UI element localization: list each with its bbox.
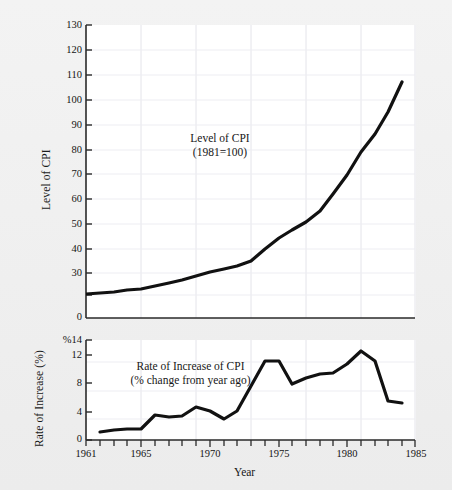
xtick-1985: 1985: [396, 448, 436, 459]
top-ytick-40: 40: [58, 243, 82, 254]
top-ytick-130: 130: [58, 19, 82, 30]
xtick-1980: 1980: [327, 448, 367, 459]
bottom-annotation-line2: (% change from year ago): [98, 373, 283, 387]
top-ytick-50: 50: [58, 218, 82, 229]
top-ytick-90: 90: [58, 119, 82, 130]
bottom-ytick-4: 4: [50, 406, 82, 417]
top-ytick-120: 120: [58, 44, 82, 55]
xtick-1961: 1961: [66, 448, 106, 459]
bottom-ytick-0: 0: [50, 433, 82, 444]
top-annotation-line2: (1981=100): [160, 145, 280, 159]
xtick-1975: 1975: [259, 448, 299, 459]
bottom-annotation-line1: Rate of Increase of CPI: [98, 359, 283, 373]
bottom-ytick-14: %14: [50, 334, 82, 345]
top-ytick-30: 30: [58, 267, 82, 278]
bottom-ytick-12: 12: [50, 349, 82, 360]
top-ytick-110: 110: [58, 69, 82, 80]
top-ytick-70: 70: [58, 168, 82, 179]
bottom-ytick-8: 8: [50, 377, 82, 388]
bottom-x-ticks: [86, 440, 415, 447]
x-axis-title: Year: [234, 466, 255, 478]
top-y-axis-title: Level of CPI: [40, 149, 52, 210]
xtick-1970: 1970: [190, 448, 230, 459]
top-ytick-100: 100: [58, 94, 82, 105]
top-ytick-0: 0: [58, 311, 82, 322]
xtick-1965: 1965: [121, 448, 161, 459]
cpi-figure: 130 120 110 100 90 80 70 60 50 40 30 0 %…: [0, 0, 452, 490]
top-ytick-80: 80: [58, 144, 82, 155]
top-annotation-line1: Level of CPI: [160, 131, 280, 145]
bottom-y-axis-title: Rate of Increase (%): [33, 350, 45, 447]
top-ytick-60: 60: [58, 193, 82, 204]
